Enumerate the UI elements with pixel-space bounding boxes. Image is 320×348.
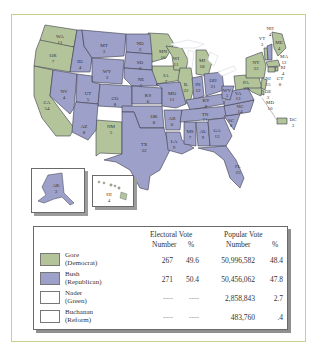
svg-text:ME: ME bbox=[275, 40, 283, 45]
svg-text:13: 13 bbox=[236, 96, 242, 101]
svg-text:23: 23 bbox=[244, 86, 250, 91]
svg-text:AL: AL bbox=[200, 129, 207, 134]
svg-text:11: 11 bbox=[174, 62, 179, 67]
svg-text:10: 10 bbox=[161, 55, 167, 60]
table-row-gore: Gore(Democrat) 267 49.6 50,996,582 48.4 bbox=[40, 252, 285, 270]
state-ct bbox=[268, 67, 275, 72]
pv-pct: 2.7 bbox=[274, 294, 283, 303]
svg-text:MO: MO bbox=[168, 91, 176, 96]
svg-text:RI: RI bbox=[281, 65, 286, 70]
svg-text:15: 15 bbox=[266, 82, 272, 87]
svg-text:25: 25 bbox=[236, 170, 242, 175]
svg-text:13: 13 bbox=[215, 134, 221, 139]
svg-text:WA: WA bbox=[56, 34, 64, 39]
svg-text:NY: NY bbox=[252, 60, 260, 65]
pv-pct: 48.4 bbox=[270, 256, 283, 265]
header-electoral-vote: Electoral Vote bbox=[150, 230, 192, 239]
hawaii-inset: HI 4 bbox=[92, 175, 134, 207]
state-ma bbox=[266, 60, 280, 67]
svg-text:NE: NE bbox=[138, 77, 145, 82]
svg-text:NH: NH bbox=[266, 26, 274, 31]
ev-number: 267 bbox=[162, 256, 173, 265]
svg-text:12: 12 bbox=[196, 88, 202, 93]
svg-text:AR: AR bbox=[169, 116, 177, 121]
state-al bbox=[196, 122, 210, 146]
svg-text:IA: IA bbox=[163, 73, 169, 78]
lake-michigan bbox=[188, 50, 194, 68]
svg-text:8: 8 bbox=[279, 82, 282, 87]
svg-text:CA: CA bbox=[44, 100, 51, 105]
ev-number: ---- bbox=[163, 294, 173, 303]
svg-text:MT: MT bbox=[100, 43, 108, 48]
svg-text:11: 11 bbox=[203, 117, 208, 122]
ev-pct: 50.4 bbox=[186, 275, 199, 284]
svg-text:21: 21 bbox=[211, 84, 217, 89]
svg-text:AZ: AZ bbox=[81, 124, 88, 129]
svg-text:SD: SD bbox=[137, 60, 144, 65]
svg-text:ID: ID bbox=[77, 59, 83, 64]
svg-text:33: 33 bbox=[254, 66, 260, 71]
svg-text:3: 3 bbox=[261, 42, 264, 47]
svg-text:NV: NV bbox=[60, 89, 68, 94]
svg-text:UT: UT bbox=[85, 91, 92, 96]
candidate-party: (Reform) bbox=[65, 317, 93, 325]
svg-text:ND: ND bbox=[136, 41, 144, 46]
democrat-swatch bbox=[40, 253, 60, 266]
state-nh bbox=[267, 44, 272, 60]
svg-text:10: 10 bbox=[268, 106, 274, 111]
pv-pct: .4 bbox=[277, 313, 283, 322]
candidate-party: (Republican) bbox=[65, 279, 102, 287]
svg-text:11: 11 bbox=[58, 40, 63, 45]
svg-text:32: 32 bbox=[142, 148, 148, 153]
svg-text:OR: OR bbox=[50, 53, 58, 58]
svg-text:VT: VT bbox=[259, 36, 266, 41]
header-popular-vote: Popular Vote bbox=[224, 230, 263, 239]
svg-text:KY: KY bbox=[202, 98, 210, 103]
pv-number: 50,996,582 bbox=[221, 256, 255, 265]
svg-text:54: 54 bbox=[45, 106, 51, 111]
svg-text:GA: GA bbox=[213, 128, 221, 133]
header-pv-number: Number bbox=[226, 240, 251, 249]
pv-number: 483,760 bbox=[231, 313, 255, 322]
svg-text:4: 4 bbox=[108, 198, 111, 203]
svg-text:14: 14 bbox=[238, 109, 244, 114]
svg-text:DE: DE bbox=[265, 89, 272, 94]
svg-text:MS: MS bbox=[186, 129, 193, 134]
svg-text:OK: OK bbox=[150, 114, 158, 119]
ev-number: ---- bbox=[163, 313, 173, 322]
svg-text:3: 3 bbox=[292, 123, 295, 128]
svg-text:18: 18 bbox=[200, 64, 206, 69]
svg-text:TX: TX bbox=[141, 142, 148, 147]
results-table: Electoral Vote Popular Vote Number % Num… bbox=[33, 226, 288, 330]
svg-text:NJ: NJ bbox=[265, 76, 271, 81]
ev-pct: 49.6 bbox=[186, 256, 199, 265]
candidate-party: (Green) bbox=[65, 298, 87, 306]
svg-text:HI: HI bbox=[106, 192, 112, 197]
svg-text:MD: MD bbox=[266, 100, 274, 105]
lake-erie bbox=[218, 66, 236, 76]
svg-text:OH: OH bbox=[209, 78, 217, 83]
svg-text:PA: PA bbox=[243, 80, 249, 85]
green-party-swatch bbox=[40, 291, 60, 304]
pv-pct: 47.8 bbox=[270, 275, 283, 284]
state-ri bbox=[275, 67, 278, 71]
state-dc bbox=[277, 118, 287, 124]
svg-text:4: 4 bbox=[269, 32, 272, 37]
svg-text:IN: IN bbox=[195, 82, 201, 87]
svg-text:MN: MN bbox=[159, 49, 167, 54]
alaska-inset: AK 3 bbox=[31, 168, 85, 213]
svg-text:22: 22 bbox=[184, 88, 190, 93]
svg-text:MA: MA bbox=[280, 54, 288, 59]
state-ms bbox=[184, 122, 196, 146]
ev-pct: ---- bbox=[189, 294, 199, 303]
reform-party-swatch bbox=[40, 310, 60, 323]
table-row-bush: Bush(Republican) 271 50.4 50,456,062 47.… bbox=[40, 271, 285, 289]
svg-text:LA: LA bbox=[171, 139, 178, 144]
table-row-buchanan: Buchanan(Reform) ---- ---- 483,760 .4 bbox=[40, 309, 285, 327]
svg-text:CO: CO bbox=[112, 96, 119, 101]
state-ny bbox=[246, 52, 266, 78]
svg-text:WY: WY bbox=[103, 69, 112, 74]
pv-number: 50,456,062 bbox=[221, 275, 255, 284]
svg-text:DC: DC bbox=[290, 117, 298, 122]
ev-number: 271 bbox=[162, 275, 173, 284]
